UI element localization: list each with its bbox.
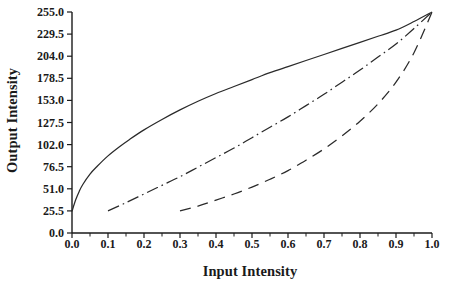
x-axis-label: Input Intensity	[55, 262, 445, 280]
plot-area	[0, 0, 451, 296]
x-axis-label-text: Input Intensity	[203, 263, 298, 279]
curve-dash-dot	[108, 12, 432, 211]
data-curves	[72, 12, 432, 211]
curve-dashed	[180, 12, 432, 211]
axes	[67, 12, 432, 238]
chart-figure: Output Intensity 0.025.551.076.5102.0127…	[0, 0, 451, 296]
curve-solid	[72, 12, 432, 211]
